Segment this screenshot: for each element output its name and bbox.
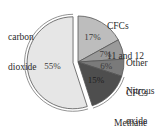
label-methane: Methane [114, 98, 147, 130]
label-carbon-dioxide: carbon dioxide [8, 12, 37, 82]
label-line: carbon [8, 32, 37, 42]
slice-value-label: 15% [88, 75, 105, 85]
label-line: Nitrous [126, 86, 155, 96]
label-line: dioxide [8, 62, 37, 72]
slice-value-label: 55% [44, 61, 61, 71]
label-line: Methane [114, 118, 147, 128]
label-line: CFCs [107, 21, 144, 31]
slice-value-label: 17% [84, 32, 101, 42]
